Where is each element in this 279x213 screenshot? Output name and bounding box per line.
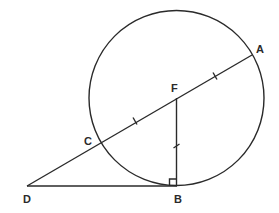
- label-f: F: [171, 82, 178, 94]
- label-d: D: [23, 193, 31, 205]
- geometry-diagram: A F C D B: [0, 0, 279, 213]
- label-c: C: [84, 135, 92, 147]
- segment-da: [27, 55, 252, 186]
- label-b: B: [174, 193, 182, 205]
- label-a: A: [256, 43, 264, 55]
